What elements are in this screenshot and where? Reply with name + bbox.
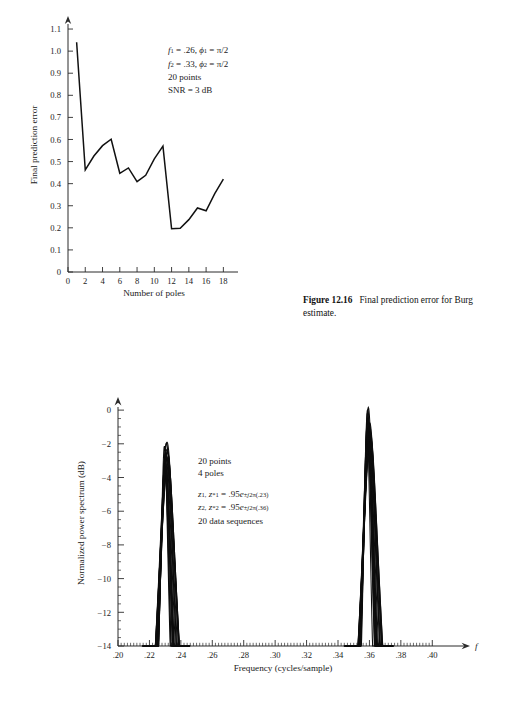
x-tick-label: 12 — [167, 276, 176, 286]
figure-1-caption: Figure 12.16Final prediction error for B… — [303, 294, 499, 320]
annot2-line3: z1, z*1 = .95e±j2π(.23) — [198, 488, 268, 501]
caption-label: Figure 12.16 — [303, 295, 352, 305]
y-tick-label: −8 — [102, 540, 111, 550]
x-tick-label: 10 — [150, 276, 159, 286]
annot2-line5: 20 data sequences — [198, 515, 268, 527]
x-tick-label: .38 — [395, 650, 406, 660]
y-tick-label: −12 — [98, 608, 111, 618]
y-tick-label: 1.0 — [50, 46, 61, 56]
x-tick-label: .28 — [238, 650, 249, 660]
x-axis-variable: f — [475, 641, 479, 651]
x-tick-label: 6 — [118, 276, 123, 286]
y-tick-label: 0.5 — [50, 157, 61, 167]
x-tick-label: 2 — [83, 276, 87, 286]
y-axis-title: Normalized power spectrum (dB) — [76, 461, 86, 585]
x-tick-label: 8 — [135, 276, 139, 286]
spectrum-chart-svg: f0−2−4−6−8−10−12−14.20.22.24.26.28.30.32… — [0, 378, 506, 703]
annot2-line2: 4 poles — [198, 467, 268, 479]
y-tick-label: 0 — [107, 405, 111, 415]
y-tick-label: −4 — [102, 473, 112, 483]
spectrum-trace — [143, 475, 188, 646]
y-tick-label: 1.1 — [50, 24, 61, 34]
x-tick-label: 16 — [202, 276, 211, 286]
y-tick-label: 0.6 — [50, 135, 61, 145]
y-tick-label: 0.9 — [50, 68, 61, 78]
x-tick-label: .24 — [175, 650, 186, 660]
x-tick-label: 0 — [66, 276, 70, 286]
y-tick-label: 0.4 — [50, 179, 61, 189]
figure-1-container: 00.10.20.30.40.50.60.70.80.91.01.1024681… — [0, 0, 300, 310]
annot2-line4: z2, z*2 = .95e±j2π(.36) — [198, 501, 268, 514]
x-tick-label: .36 — [364, 650, 375, 660]
figure-2-annotation: 20 points 4 poles z1, z*1 = .95e±j2π(.23… — [198, 455, 268, 527]
y-tick-label: 0.1 — [50, 245, 61, 255]
y-tick-label: −14 — [98, 641, 112, 651]
x-tick-label: .30 — [270, 650, 281, 660]
annot1-line2: f2 = .33, ϕ2 = π/2 — [168, 58, 228, 72]
x-tick-label: .34 — [333, 650, 344, 660]
x-tick-label: .40 — [427, 650, 438, 660]
x-tick-label: 4 — [100, 276, 105, 286]
y-tick-label: 0.3 — [50, 201, 61, 211]
y-tick-label: −10 — [98, 574, 111, 584]
annot2-line1: 20 points — [198, 455, 268, 467]
x-tick-label: 18 — [219, 276, 228, 286]
annot1-line1: f1 = .26, ϕ1 = π/2 — [168, 44, 228, 58]
fpe-chart-svg: 00.10.20.30.40.50.60.70.80.91.01.1024681… — [0, 0, 300, 310]
y-tick-label: 0.7 — [50, 112, 61, 122]
x-tick-label: .22 — [144, 650, 155, 660]
figure-2-container: f0−2−4−6−8−10−12−14.20.22.24.26.28.30.32… — [0, 378, 506, 703]
y-tick-label: 0.2 — [50, 223, 61, 233]
x-axis-title: Frequency (cycles/sample) — [234, 663, 333, 673]
figure-1-annotation: f1 = .26, ϕ1 = π/2 f2 = .33, ϕ2 = π/2 20… — [168, 44, 228, 96]
spectrum-trace — [143, 469, 188, 646]
y-tick-label: −6 — [102, 506, 112, 516]
y-tick-label: −2 — [102, 439, 111, 449]
annot1-line3: 20 points — [168, 71, 228, 84]
x-tick-label: 14 — [185, 276, 194, 286]
y-tick-label: 0.8 — [50, 90, 61, 100]
x-axis-title: Number of poles — [123, 288, 185, 298]
x-tick-label: .26 — [207, 650, 218, 660]
spectrum-trace — [143, 473, 188, 646]
x-tick-label: .20 — [113, 650, 124, 660]
y-tick-label: 0 — [57, 267, 61, 277]
annot1-line4: SNR = 3 dB — [168, 84, 228, 97]
x-tick-label: .32 — [301, 650, 312, 660]
spectrum-trace — [143, 464, 188, 646]
y-axis-title: Final prediction error — [29, 106, 39, 185]
spectrum-trace — [143, 464, 188, 646]
